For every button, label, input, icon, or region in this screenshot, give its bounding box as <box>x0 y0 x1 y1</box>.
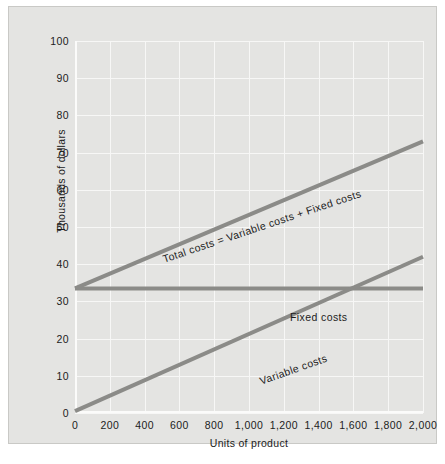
series-line-variable-costs <box>75 257 423 411</box>
gridline-horizontal <box>75 413 423 414</box>
y-axis-tick-label: 40 <box>35 258 69 270</box>
y-axis-tick-label: 30 <box>35 295 69 307</box>
chart-figure: 0102030405060708090100 02004006008001,00… <box>8 6 437 444</box>
x-axis-tick-label: 1,400 <box>304 419 332 431</box>
x-axis-tick-label: 1,000 <box>235 419 263 431</box>
x-axis-tick-label: 400 <box>135 419 154 431</box>
y-axis-tick-label: 10 <box>35 370 69 382</box>
y-axis-tick-label: 90 <box>35 72 69 84</box>
x-axis-tick-label: 800 <box>205 419 224 431</box>
gridline-vertical <box>423 41 424 413</box>
x-axis-tick-label: 200 <box>100 419 119 431</box>
series-label-fixed-costs: Fixed costs <box>290 311 348 323</box>
y-axis-title: Thousands of dollars <box>55 121 67 241</box>
x-axis-tick-label: 1,800 <box>374 419 402 431</box>
y-axis-tick-label: 100 <box>35 35 69 47</box>
y-axis-tick-label: 0 <box>35 407 69 419</box>
x-axis-tick-label: 0 <box>72 419 78 431</box>
x-axis-tick-label: 600 <box>170 419 189 431</box>
plot-area: Total costs = Variable costs + Fixed cos… <box>75 41 423 413</box>
x-axis-tick-label: 2,000 <box>409 419 437 431</box>
x-axis-tick-label: 1,600 <box>339 419 367 431</box>
y-axis-tick-label: 20 <box>35 333 69 345</box>
y-axis-tick-label: 80 <box>35 109 69 121</box>
x-axis-tick-labels: 02004006008001,0001,2001,4001,6001,8002,… <box>75 419 423 435</box>
x-axis-tick-label: 1,200 <box>270 419 298 431</box>
series-line-total-costs <box>75 141 423 288</box>
x-axis-title: Units of product <box>75 437 423 449</box>
